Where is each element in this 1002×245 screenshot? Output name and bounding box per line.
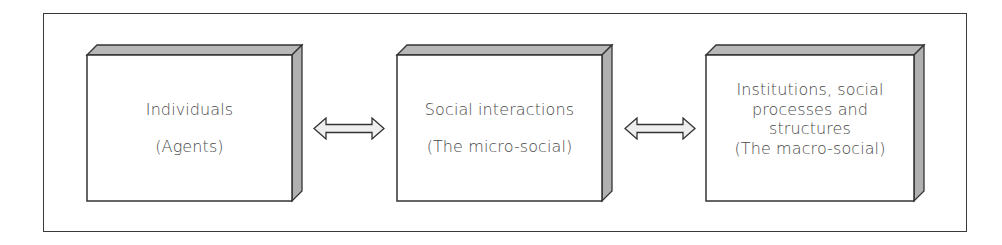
box-title-line: processes and — [752, 100, 868, 120]
box-title: Social interactions — [425, 100, 574, 119]
bidirectional-arrow-icon — [624, 117, 696, 140]
box-social-interactions: Social interactions (The micro-social) — [397, 45, 613, 203]
box-title-line: structures — [769, 119, 851, 139]
box-individuals-text: Individuals (Agents) — [87, 55, 292, 201]
double-arrow-icon — [624, 117, 696, 140]
box-institutions-text: Institutions, social processes and struc… — [706, 69, 914, 169]
bidirectional-arrow-icon — [313, 117, 385, 140]
box-institutions: Institutions, social processes and struc… — [706, 45, 925, 203]
box-individuals: Individuals (Agents) — [87, 45, 303, 203]
box-subtitle: (Agents) — [155, 137, 223, 156]
box-subtitle: (The macro-social) — [734, 139, 885, 159]
box-social-interactions-text: Social interactions (The micro-social) — [397, 55, 602, 201]
box-title: Individuals — [146, 100, 233, 119]
box-title-line: Institutions, social — [736, 80, 883, 100]
box-subtitle: (The micro-social) — [427, 137, 573, 156]
double-arrow-icon — [313, 117, 385, 140]
